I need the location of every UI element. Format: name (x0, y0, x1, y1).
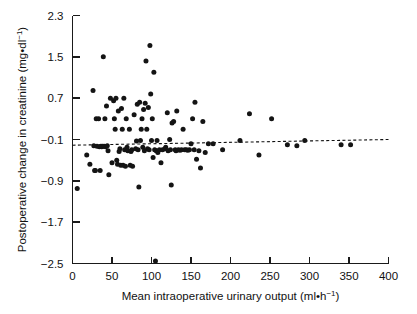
data-point (130, 164, 135, 169)
data-point (171, 119, 176, 124)
data-point (348, 142, 353, 147)
plot-canvas: −2.5−1.7−0.9−0.10.71.52.3050100150200250… (0, 0, 417, 314)
data-point (151, 70, 156, 75)
data-point (192, 147, 197, 152)
data-point (198, 165, 203, 170)
data-point (104, 103, 109, 108)
axis-spines (73, 16, 389, 264)
data-point (110, 160, 115, 165)
y-tick-label: 0.7 (48, 92, 64, 104)
x-tick-label: 400 (379, 270, 398, 282)
data-point (140, 116, 145, 121)
data-point (96, 116, 101, 121)
x-tick-label: 300 (300, 270, 319, 282)
data-point (91, 88, 96, 93)
data-point (84, 153, 89, 158)
data-point (181, 127, 186, 132)
x-tick-label: 350 (339, 270, 358, 282)
data-point (136, 185, 141, 190)
data-point (167, 137, 172, 142)
data-point (101, 54, 106, 59)
x-tick-label: 250 (260, 270, 279, 282)
x-tick-label: 150 (181, 270, 200, 282)
data-point (148, 92, 153, 97)
data-point (206, 141, 211, 146)
data-point (106, 172, 111, 177)
data-point (153, 258, 158, 263)
data-point (117, 146, 122, 151)
data-point (168, 147, 173, 152)
y-tick-label: −1.7 (41, 216, 64, 228)
data-point (165, 110, 170, 115)
data-point (196, 148, 201, 153)
data-point (149, 138, 154, 143)
data-point (141, 107, 146, 112)
data-point (247, 111, 252, 116)
data-point (190, 116, 195, 121)
data-point (93, 168, 98, 173)
axis-ticks (73, 16, 389, 264)
x-axis-title: Mean intraoperative urinary output (ml•h… (122, 289, 340, 302)
data-point (150, 116, 155, 121)
x-tick-label: 0 (69, 270, 75, 282)
data-point (155, 138, 160, 143)
data-point (119, 106, 124, 111)
data-point (285, 142, 290, 147)
data-point (269, 116, 274, 121)
data-point (139, 127, 144, 132)
data-point (114, 158, 119, 163)
data-point (75, 186, 80, 191)
data-point (120, 127, 125, 132)
axes (73, 16, 389, 264)
data-point (98, 168, 103, 173)
data-point (102, 116, 107, 121)
y-tick-label: −0.9 (41, 175, 64, 187)
data-point (187, 147, 192, 152)
data-point (105, 143, 110, 148)
x-tick-label: 50 (106, 270, 119, 282)
data-point (174, 109, 179, 114)
data-point (147, 43, 152, 48)
data-point (169, 182, 174, 187)
data-point (121, 96, 126, 101)
data-point (203, 150, 208, 155)
data-point (151, 155, 156, 160)
data-point (147, 147, 152, 152)
data-point (113, 96, 118, 101)
data-point (123, 164, 128, 169)
data-point (200, 119, 205, 124)
data-point (137, 100, 142, 105)
data-point (124, 116, 129, 121)
y-axis-title: Postoperative change in creatinine (mg•d… (15, 27, 28, 253)
data-point (256, 153, 261, 158)
data-point (220, 147, 225, 152)
data-point (87, 162, 92, 167)
y-tick-label: 1.5 (48, 51, 64, 63)
y-tick-label: −0.1 (41, 134, 64, 146)
data-point (339, 142, 344, 147)
data-point (211, 141, 216, 146)
y-tick-label: −2.5 (41, 258, 64, 270)
data-point (112, 116, 117, 121)
data-point (194, 157, 199, 162)
data-point (192, 100, 197, 105)
data-point (138, 138, 143, 143)
data-points (75, 43, 353, 263)
data-point (136, 147, 141, 152)
data-point (106, 148, 111, 153)
data-point (189, 141, 194, 146)
data-point (113, 127, 118, 132)
scatter-plot-figure: −2.5−1.7−0.9−0.10.71.52.3050100150200250… (0, 0, 417, 314)
axis-titles: Mean intraoperative urinary output (ml•h… (15, 27, 340, 302)
data-point (146, 105, 151, 110)
x-tick-label: 100 (142, 270, 161, 282)
x-tick-label: 200 (221, 270, 240, 282)
data-point (127, 127, 132, 132)
data-point (294, 143, 299, 148)
data-point (158, 160, 163, 165)
data-point (132, 112, 137, 117)
data-point (143, 101, 148, 106)
data-point (143, 58, 148, 63)
y-tick-label: 2.3 (48, 10, 64, 22)
data-point (302, 138, 307, 143)
